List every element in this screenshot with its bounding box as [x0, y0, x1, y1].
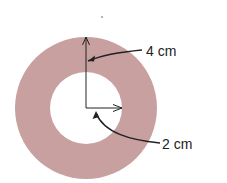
inner-radius-label: 2 cm: [162, 136, 192, 152]
annulus-diagram: 4 cm 2 cm: [0, 0, 227, 183]
outer-radius-label: 4 cm: [146, 43, 176, 59]
dot-mark: [101, 16, 103, 18]
